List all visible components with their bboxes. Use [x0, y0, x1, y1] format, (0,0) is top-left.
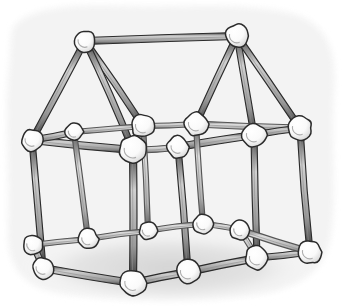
ball-and-stick-house-drawing — [0, 0, 347, 306]
node-base-back-mid — [139, 222, 157, 240]
ball-base-back-midr — [193, 214, 214, 234]
node-base-front-midr — [177, 259, 201, 284]
node-base-back-midr — [193, 214, 214, 234]
ball-base-back-right — [230, 220, 250, 240]
ball-eave-front-mid — [119, 135, 146, 163]
node-base-back-right — [230, 220, 250, 240]
sketch-canvas: Hand-drawn ball-and-stick house frame mo… — [0, 0, 347, 306]
node-base-far-right — [298, 241, 322, 263]
node-eave-back-mid — [132, 114, 155, 136]
node-eave-back-right — [288, 116, 311, 141]
ball-eave-back-right — [288, 116, 311, 141]
node-ridge-left — [74, 31, 94, 52]
ball-base-far-right — [298, 241, 322, 263]
rod-post-fm — [130, 150, 137, 283]
node-eave-front-mid — [119, 135, 146, 163]
ball-ridge-left — [74, 31, 94, 52]
node-base-back-left — [24, 235, 43, 254]
node-base-front-left — [33, 258, 54, 280]
